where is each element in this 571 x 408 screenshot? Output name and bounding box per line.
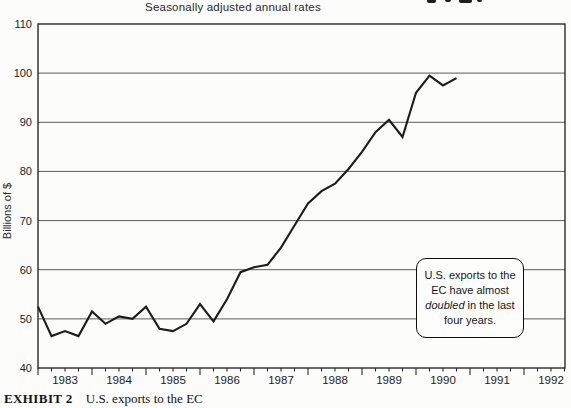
scanned-chart-page: Seasonally adjusted annual rates Billion… xyxy=(0,0,571,408)
exhibit-caption: EXHIBIT 2U.S. exports to the EC xyxy=(4,391,203,407)
exhibit-caption-text: U.S. exports to the EC xyxy=(86,391,203,406)
svg-text:60: 60 xyxy=(20,264,32,276)
svg-text:70: 70 xyxy=(20,215,32,227)
svg-text:90: 90 xyxy=(20,116,32,128)
svg-text:40: 40 xyxy=(20,362,32,374)
svg-text:1985: 1985 xyxy=(160,374,186,386)
svg-text:1983: 1983 xyxy=(52,374,78,386)
svg-text:1987: 1987 xyxy=(268,374,294,386)
svg-text:100: 100 xyxy=(14,67,32,79)
svg-text:1988: 1988 xyxy=(322,374,348,386)
annotation-callout: U.S. exports to theEC have almostdoubled… xyxy=(416,258,524,338)
svg-text:80: 80 xyxy=(20,165,32,177)
svg-text:1986: 1986 xyxy=(214,374,240,386)
y-axis-labels: 405060708090100110 xyxy=(14,18,32,374)
svg-text:1992: 1992 xyxy=(538,374,564,386)
svg-text:50: 50 xyxy=(20,313,32,325)
svg-text:1991: 1991 xyxy=(484,374,510,386)
svg-text:1984: 1984 xyxy=(106,374,132,386)
x-axis-labels: 1983198419851986198719881989199019911992 xyxy=(52,374,564,386)
exports-line-series xyxy=(38,76,457,337)
annotation-text: U.S. exports to theEC have almostdoubled… xyxy=(417,268,523,328)
chart-svg: 4050607080901001101983198419851986198719… xyxy=(0,0,571,408)
svg-text:1989: 1989 xyxy=(376,374,402,386)
svg-text:110: 110 xyxy=(14,18,32,30)
svg-text:1990: 1990 xyxy=(430,374,456,386)
exhibit-label: EXHIBIT 2 xyxy=(4,391,73,406)
